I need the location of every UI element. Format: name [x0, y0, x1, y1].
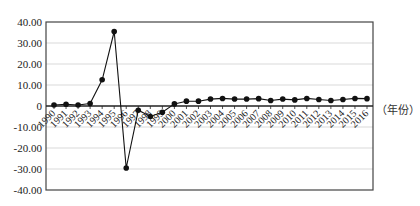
data-point: [111, 29, 117, 35]
data-point: [328, 98, 334, 104]
data-point: [172, 101, 178, 107]
data-point: [220, 96, 226, 102]
y-tick-label: 40.00: [17, 16, 42, 28]
y-tick-label: -30.00: [14, 163, 43, 175]
data-point: [232, 96, 238, 102]
data-point: [340, 97, 346, 103]
data-point: [184, 98, 190, 104]
data-point: [87, 101, 93, 107]
y-tick-label: 10.00: [17, 79, 42, 91]
data-point: [196, 98, 202, 104]
data-point: [268, 98, 274, 104]
data-point: [292, 97, 298, 103]
data-point: [99, 77, 105, 83]
y-tick-label: -20.00: [14, 142, 43, 154]
y-tick-label: 30.00: [17, 37, 42, 49]
data-point: [352, 96, 358, 102]
data-point: [256, 96, 262, 102]
data-point: [280, 96, 286, 102]
data-point: [75, 102, 81, 108]
y-tick-label: 0: [37, 100, 43, 112]
x-axis-tick-labels: 1990199119921993199419951996199719981999…: [35, 106, 370, 130]
data-point: [123, 165, 129, 171]
data-point: [364, 96, 370, 102]
y-tick-label: -40.00: [14, 184, 43, 196]
data-point: [244, 96, 250, 102]
data-point: [160, 110, 166, 116]
x-axis-unit-label: （年份）: [376, 103, 420, 116]
data-point: [135, 107, 141, 113]
data-point: [51, 102, 57, 108]
data-point: [208, 96, 214, 102]
line-chart: 40.0030.0020.0010.000-10.00-20.00-30.00-…: [0, 0, 420, 206]
y-axis-tick-labels: 40.0030.0020.0010.000-10.00-20.00-30.00-…: [14, 16, 43, 196]
data-point: [316, 97, 322, 103]
data-point: [63, 102, 69, 108]
data-point: [304, 96, 310, 102]
y-tick-label: 20.00: [17, 58, 42, 70]
data-point: [148, 114, 154, 120]
